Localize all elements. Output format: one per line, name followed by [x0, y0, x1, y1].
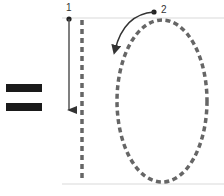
stroke-2-dashed-oval: [117, 20, 207, 182]
step-2-label: 2: [161, 4, 167, 15]
equals-sign: [6, 84, 42, 111]
handwriting-stroke-diagram: 1 2: [0, 0, 224, 196]
stroke-1-direction-arrow: [66, 16, 71, 110]
step-1-label: 1: [66, 2, 72, 13]
stroke-2-direction-arrow: [115, 9, 157, 50]
